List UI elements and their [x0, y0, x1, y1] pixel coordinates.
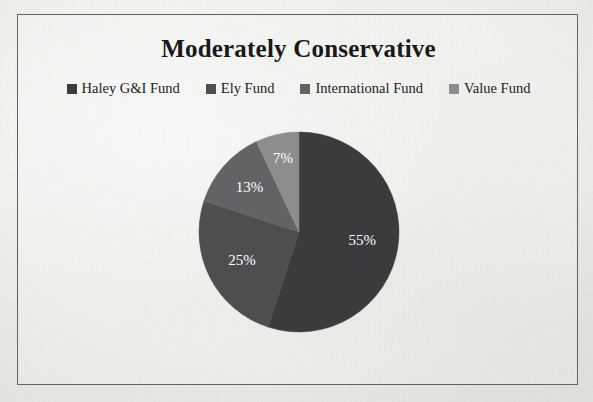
legend-label: International Fund [315, 81, 423, 96]
legend-swatch-icon [67, 84, 77, 94]
pie-slice-label: 55% [348, 232, 376, 248]
scanned-page: Moderately Conservative Haley G&I Fund E… [0, 0, 593, 402]
legend-swatch-icon [206, 84, 216, 94]
legend-item-haley-gi-fund[interactable]: Haley G&I Fund [67, 81, 180, 96]
chart-frame: Moderately Conservative Haley G&I Fund E… [17, 14, 578, 385]
pie-chart-svg: 55%25%13%7% [197, 130, 401, 334]
legend-swatch-icon [300, 84, 310, 94]
page-title: Moderately Conservative [18, 36, 579, 61]
pie-slice-label: 7% [273, 150, 293, 166]
legend-label: Value Fund [464, 81, 530, 96]
pie-chart: 55%25%13%7% [197, 130, 401, 334]
pie-slice-label: 13% [236, 179, 264, 195]
legend-item-value-fund[interactable]: Value Fund [449, 81, 530, 96]
pie-slice-label: 25% [228, 252, 256, 268]
legend-label: Haley G&I Fund [82, 81, 180, 96]
legend-swatch-icon [449, 84, 459, 94]
legend-item-international-fund[interactable]: International Fund [300, 81, 423, 96]
chart-legend: Haley G&I Fund Ely Fund International Fu… [18, 81, 579, 96]
legend-label: Ely Fund [221, 81, 275, 96]
legend-item-ely-fund[interactable]: Ely Fund [206, 81, 275, 96]
